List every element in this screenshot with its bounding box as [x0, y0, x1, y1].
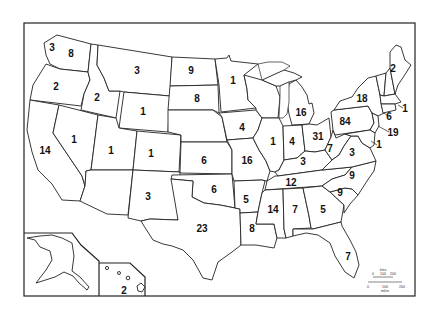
state-arizona: [80, 170, 133, 215]
hawaii-island-kauai: [105, 266, 108, 269]
state-label-fl: 7: [345, 251, 351, 262]
state-label-pa: 84: [339, 116, 351, 127]
state-label-mn: 1: [230, 75, 236, 86]
state-label-al: 7: [292, 204, 298, 215]
state-label-co: 1: [148, 148, 154, 159]
state-label-ct: 6: [386, 111, 392, 122]
state-colorado: [133, 131, 181, 172]
state-label-mt: 3: [134, 65, 140, 76]
state-label-nd: 9: [188, 65, 194, 76]
state-label-ks: 6: [201, 155, 207, 166]
state-label-nv: 1: [71, 134, 77, 145]
state-label-or: 2: [53, 81, 59, 92]
state-label-ma-ri: 1: [402, 103, 408, 114]
state-massachusetts: [380, 94, 401, 104]
state-label-md-de: 1: [376, 139, 382, 150]
hawaii-island-maui: [126, 276, 130, 280]
scale-top-tick-2: 200: [390, 272, 396, 276]
state-label-hi: 2: [121, 285, 127, 296]
lake-michigan: [279, 82, 289, 118]
state-label-la: 8: [249, 223, 255, 234]
state-label-wy: 1: [140, 106, 146, 117]
state-label-mi: 16: [295, 107, 307, 118]
state-label-ia: 4: [239, 122, 245, 133]
state-label-in: 4: [289, 136, 295, 147]
scale-bottom-unit: miles: [381, 289, 389, 293]
state-label-ok: 6: [211, 184, 217, 195]
scale-top-tick-0: 0: [372, 272, 374, 276]
scale-bar: kms 0 100 200 0 100 200 miles: [367, 268, 405, 293]
state-label-ga: 5: [320, 204, 326, 215]
state-label-tx: 23: [196, 223, 208, 234]
state-label-nc: 9: [349, 170, 355, 181]
state-north-dakota: [170, 57, 218, 86]
state-label-ar: 5: [243, 194, 249, 205]
state-label-va: 3: [349, 147, 355, 158]
state-label-az: 3: [145, 191, 151, 202]
state-label-nj: 19: [387, 127, 399, 138]
us-map: 3822319811141164161164313738418216191362…: [0, 0, 437, 320]
scale-bottom-tick-2: 200: [399, 285, 405, 289]
state-label-ut: 1: [108, 145, 114, 156]
state-label-wv: 7: [327, 143, 333, 154]
state-label-sd: 8: [194, 93, 200, 104]
hawaii-island-oahu: [118, 272, 121, 275]
state-label-ky: 3: [300, 156, 306, 167]
state-label-me: 2: [390, 63, 396, 74]
state-label-ny: 18: [356, 93, 368, 104]
state-label-il: 1: [270, 136, 276, 147]
state-label-ca: 14: [39, 145, 51, 156]
hawaii-island-big: [137, 283, 145, 292]
state-label-tn: 12: [285, 177, 297, 188]
state-label-wa: 8: [68, 48, 74, 59]
state-label-id: 2: [94, 92, 100, 103]
state-michigan: [287, 80, 314, 125]
state-label-wa-islands: 3: [49, 42, 55, 53]
scale-bottom-tick-0: 0: [367, 285, 369, 289]
state-label-sc: 9: [337, 187, 343, 198]
state-label-ms: 14: [267, 204, 279, 215]
state-label-mo: 16: [241, 155, 253, 166]
scale-top-tick-1: 100: [380, 272, 386, 276]
state-label-oh: 31: [312, 131, 324, 142]
